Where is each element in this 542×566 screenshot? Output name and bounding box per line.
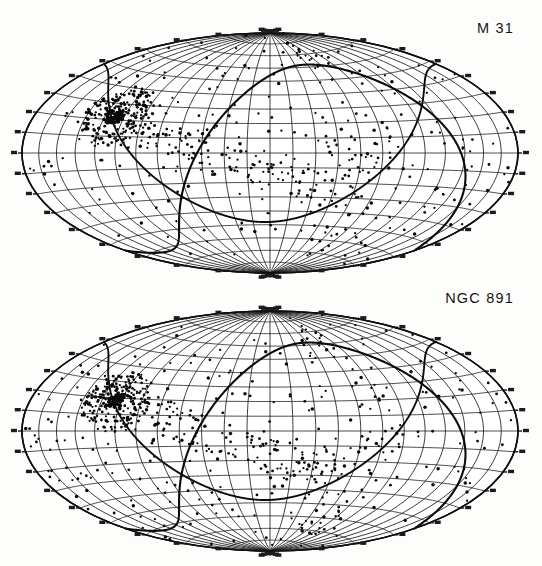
sky-object-point <box>81 129 84 132</box>
sky-object-point <box>354 381 358 385</box>
sky-object-point <box>104 107 106 109</box>
sky-object-point <box>453 73 455 75</box>
sky-object-point <box>182 526 184 528</box>
sky-object-point <box>469 482 471 484</box>
sky-object-point <box>324 231 326 233</box>
sky-object-point <box>142 527 144 529</box>
sky-object-point <box>209 470 211 472</box>
sky-object-point <box>281 64 283 66</box>
sky-object-point <box>361 337 363 339</box>
sky-object-point <box>357 166 360 169</box>
sky-object-point <box>299 470 301 472</box>
sky-object-point <box>198 498 200 500</box>
sky-object-point <box>110 426 113 429</box>
tick-label-glyph <box>523 151 529 154</box>
sky-object-point <box>300 201 302 203</box>
sky-object-point <box>83 402 85 404</box>
sky-object-point <box>130 392 132 394</box>
sky-object-point <box>423 406 427 410</box>
sky-object-point <box>85 474 88 477</box>
sky-object-point <box>165 422 168 425</box>
sky-object-point <box>115 105 117 107</box>
sky-object-point <box>148 136 151 139</box>
sky-object-point <box>265 442 268 445</box>
sky-object-point <box>110 109 114 113</box>
sky-object-point <box>80 399 83 402</box>
sky-object-point <box>177 150 180 153</box>
tick-label-glyph <box>465 228 471 231</box>
sky-object-point <box>431 430 434 433</box>
sky-object-point <box>192 152 195 155</box>
sky-object-point <box>376 143 378 145</box>
sky-object-point <box>109 384 111 386</box>
sky-object-point <box>88 420 90 422</box>
sky-object-point <box>168 423 171 426</box>
sky-object-point <box>178 441 180 443</box>
sky-object-point <box>77 121 80 124</box>
sky-object-point <box>50 165 53 168</box>
sky-object-point <box>387 166 391 170</box>
sky-object-point <box>208 134 211 137</box>
sky-object-point <box>188 158 190 160</box>
sky-object-point <box>399 424 401 426</box>
sky-object-point <box>295 461 297 463</box>
sky-object-point <box>259 180 261 182</box>
sky-object-point <box>244 34 248 38</box>
sky-object-point <box>139 415 141 417</box>
sky-object-point <box>314 331 317 334</box>
sky-object-point <box>161 403 163 405</box>
sky-object-point <box>119 384 121 386</box>
sky-object-point <box>453 466 455 468</box>
sky-object-point <box>335 438 337 440</box>
sky-object-point <box>337 493 339 495</box>
sky-object-point <box>128 92 131 95</box>
sky-object-point <box>221 74 224 77</box>
sky-object-point <box>324 170 327 173</box>
sky-object-point <box>167 152 170 155</box>
sky-object-point <box>309 355 311 357</box>
sky-object-point <box>225 154 227 156</box>
sky-object-point <box>337 506 340 509</box>
sky-object-point <box>319 385 321 387</box>
sky-object-point <box>315 509 319 513</box>
sky-object-point <box>99 159 102 162</box>
sky-object-point <box>366 439 368 441</box>
sky-object-point <box>353 138 356 141</box>
sky-object-point <box>300 230 302 232</box>
sky-object-point <box>131 132 133 134</box>
sky-object-point <box>110 76 113 79</box>
sky-object-point <box>378 397 381 400</box>
sky-object-point <box>433 207 435 209</box>
sky-object-point <box>127 379 130 382</box>
sky-object-point <box>85 489 89 493</box>
sky-object-point <box>165 408 168 411</box>
sky-object-point <box>191 482 194 485</box>
sky-object-point <box>116 402 120 406</box>
sky-object-point <box>155 145 157 147</box>
sky-object-point <box>323 528 326 531</box>
sky-object-point <box>268 183 270 185</box>
sky-object-point <box>280 130 282 132</box>
sky-object-point <box>79 364 82 367</box>
sky-object-point <box>132 414 135 417</box>
tick-label-glyph <box>174 38 180 41</box>
sky-object-point <box>423 211 426 214</box>
sky-object-point <box>362 212 365 215</box>
sky-object-point <box>237 515 239 517</box>
sky-object-point <box>303 400 306 403</box>
sky-object-point <box>120 426 123 429</box>
sky-object-point <box>273 401 275 403</box>
sky-object-point <box>423 206 425 208</box>
sky-object-point <box>279 161 282 164</box>
sky-object-point <box>131 192 135 196</box>
sky-object-point <box>434 76 437 79</box>
sky-object-point <box>325 448 327 450</box>
sky-object-point <box>318 531 320 533</box>
sky-object-point <box>91 141 93 143</box>
sky-object-point <box>178 131 182 135</box>
sky-object-point <box>349 213 351 215</box>
sky-object-point <box>136 74 140 78</box>
sky-object-point <box>349 185 352 188</box>
sky-object-point <box>347 120 349 122</box>
sky-object-point <box>208 448 210 450</box>
